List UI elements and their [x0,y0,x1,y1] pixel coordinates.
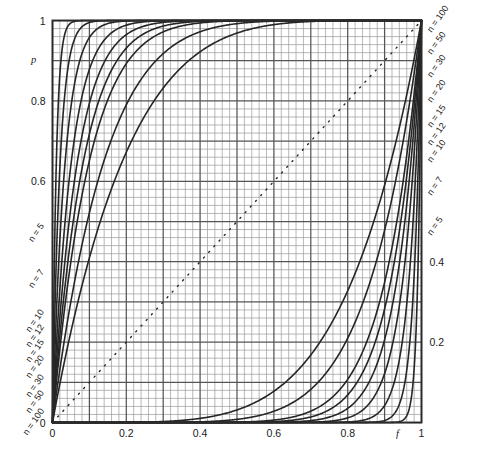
x-tick-x_tick_0: 0 [50,427,56,439]
curve-label-left-0: n = 5 [26,221,46,243]
curve-label-left-1: n = 7 [26,267,46,289]
curve-labels-right: n = 100n = 50n = 30n = 20n = 15n = 12n =… [425,4,451,238]
x-tick-x_tick_04: 0.4 [193,427,208,439]
x-tick-x_tick_08: 0.8 [340,427,355,439]
y-tick-right-y_right_04: 0.4 [430,256,445,268]
y-tick-right-y_right_02: 0.2 [430,336,445,348]
curve-label-right-3: n = 20 [425,78,448,104]
nomogram-chart: 00.20.40.60.81f10.80.60p0.40.2n = 100n =… [0,0,485,462]
x-axis-label: f [396,428,401,439]
curve-label-right-8: n = 5 [425,215,445,237]
y-tick-left-y_tick_06: 0.6 [31,175,46,187]
y-axis-label: p [30,54,36,65]
curve-labels-left: n = 5n = 7n = 10n = 12n = 15n = 20n = 30… [21,221,47,437]
curve-label-right-2: n = 30 [425,53,448,79]
curve-label-right-7: n = 7 [425,175,445,197]
x-tick-x_tick_1: 1 [419,427,425,439]
x-tick-x_tick_06: 0.6 [267,427,282,439]
chart-figure: 00.20.40.60.81f10.80.60p0.40.2n = 100n =… [0,0,485,462]
curve-label-right-1: n = 50 [425,30,448,56]
curve-label-right-0: n = 100 [425,4,451,35]
y-tick-left-y_tick_08: 0.8 [31,95,46,107]
y-tick-left-y_tick_1: 1 [40,15,46,27]
x-tick-x_tick_02: 0.2 [119,427,134,439]
